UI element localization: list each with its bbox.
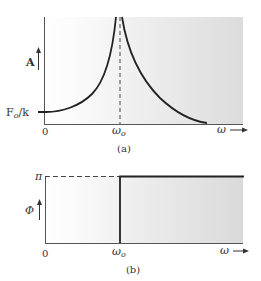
- panel-a-x-arrowhead-icon: [242, 128, 248, 133]
- panel-b-x-label: ω: [220, 244, 229, 257]
- panel-b-caption: (b): [126, 264, 140, 275]
- panel-b-shaded-area: [44, 176, 243, 243]
- panel-a-y-arrowhead-icon: [36, 47, 41, 53]
- panel-b-y-label: Φ: [25, 204, 34, 217]
- panel-b-x-resonance-label: ωo: [112, 245, 126, 259]
- panel-a-x-origin-label: 0: [42, 126, 48, 137]
- panel-b-white-top: [44, 170, 120, 176]
- panel-a-x-resonance-label: ωo: [112, 124, 126, 138]
- panel-a-shaded-area: [44, 17, 243, 124]
- resonance-figure: A Fo/k 0 ωo ω (a) π Φ 0 ωo: [0, 0, 261, 281]
- panel-a-y-label: A: [25, 56, 35, 69]
- panel-a-y-tick-label: Fo/k: [6, 106, 29, 120]
- panel-a-caption: (a): [117, 143, 131, 154]
- panel-b: π Φ 0 ωo ω (b): [25, 170, 249, 275]
- panel-b-y-arrowhead-icon: [37, 199, 42, 205]
- panel-b-x-arrowhead-icon: [243, 249, 249, 254]
- panel-a: A Fo/k 0 ωo ω (a): [6, 17, 248, 154]
- panel-a-x-label: ω: [217, 123, 226, 136]
- panel-b-y-tick-label: π: [34, 170, 43, 183]
- panel-b-x-origin-label: 0: [42, 248, 48, 259]
